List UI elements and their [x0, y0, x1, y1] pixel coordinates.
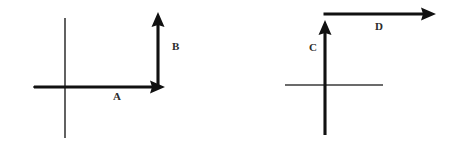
vector-a-label: A [113, 91, 121, 102]
vector-a [34, 81, 165, 94]
diagram-canvas: A B C D [0, 0, 450, 147]
vector-c-arrowhead [319, 20, 332, 35]
vector-d [324, 8, 437, 21]
right-axes-diagram [285, 8, 436, 136]
vector-b-label: B [172, 41, 179, 52]
vector-b-arrowhead [152, 12, 165, 27]
vector-c [319, 20, 332, 135]
vector-b [152, 12, 165, 88]
left-axes-diagram [33, 12, 165, 138]
vector-c-label: C [309, 42, 317, 53]
vector-d-arrowhead [421, 8, 436, 21]
vector-d-label: D [375, 21, 383, 32]
